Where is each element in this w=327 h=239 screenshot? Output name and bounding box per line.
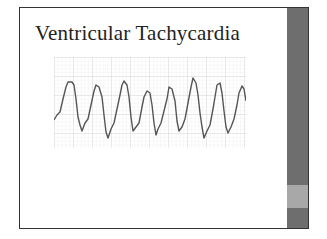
sidebar-accent-band [287, 185, 308, 208]
ecg-grid [54, 57, 246, 148]
slide-title: Ventricular Tachycardia [35, 21, 240, 46]
slide: Ventricular Tachycardia [19, 7, 309, 229]
ecg-waveform-image [54, 57, 246, 148]
slide-sidebar-decoration [287, 8, 308, 228]
